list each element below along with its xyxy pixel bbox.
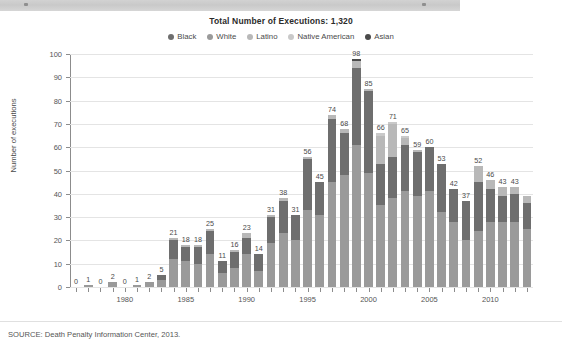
bar-segment-black [523, 203, 532, 229]
bar-column[interactable] [206, 229, 215, 287]
bar-column[interactable] [242, 233, 251, 287]
x-tick-mark [320, 288, 321, 292]
bar-column[interactable] [157, 275, 166, 287]
bar-segment-white [474, 231, 483, 287]
bar-segment-white [145, 282, 154, 287]
x-tick-label: 2010 [470, 295, 510, 304]
bar-value-label: 53 [438, 154, 446, 163]
bar-column[interactable] [388, 122, 397, 287]
gridline [70, 171, 533, 172]
bar-value-label: 66 [377, 123, 385, 132]
bar-segment-latino [401, 138, 410, 145]
bar-column[interactable] [194, 245, 203, 287]
bar-segment-black [486, 189, 495, 222]
bar-segment-white [291, 240, 300, 287]
legend-item-black[interactable]: Black [168, 32, 196, 41]
bar-segment-black [388, 157, 397, 199]
bar-segment-black [181, 247, 190, 261]
bar-column[interactable] [181, 245, 190, 287]
bar-value-label: 38 [279, 188, 287, 197]
y-tick-label: 70 [36, 120, 62, 129]
x-tick-label: 1995 [288, 295, 328, 304]
bar-segment-white [437, 212, 446, 287]
bar-column[interactable] [413, 150, 422, 287]
bar-segment-white [388, 198, 397, 287]
x-tick-mark [490, 288, 491, 292]
bar-value-label: 2 [111, 272, 115, 281]
bar-column[interactable] [523, 196, 532, 287]
bar-column[interactable] [133, 285, 142, 287]
bar-column[interactable] [230, 250, 239, 287]
bar-segment-white [498, 222, 507, 287]
bar-segment-white [413, 196, 422, 287]
bar-segment-white [352, 145, 361, 287]
bar-segment-black [376, 164, 385, 206]
x-tick-mark [381, 288, 382, 292]
bar-value-label: 0 [74, 277, 78, 286]
gridline [70, 287, 533, 288]
bar-column[interactable] [291, 215, 300, 287]
bar-column[interactable] [303, 157, 312, 287]
bar-column[interactable] [340, 129, 349, 287]
bar-value-label: 37 [462, 191, 470, 200]
bar-column[interactable] [315, 182, 324, 287]
bar-column[interactable] [486, 180, 495, 287]
bar-segment-black [340, 133, 349, 175]
bar-segment-black [194, 247, 203, 263]
bar-column[interactable] [364, 89, 373, 287]
bar-column[interactable] [401, 136, 410, 287]
bar-segment-black [328, 119, 337, 182]
legend-swatch-icon [247, 34, 253, 40]
bar-column[interactable] [84, 285, 93, 287]
bar-value-label: 11 [219, 251, 226, 260]
bar-column[interactable] [462, 201, 471, 287]
legend-item-native-american[interactable]: Native American [288, 32, 354, 41]
bar-column[interactable] [169, 238, 178, 287]
x-tick-mark [295, 288, 296, 292]
bar-column[interactable] [498, 187, 507, 287]
bar-segment-white [401, 191, 410, 287]
bar-column[interactable] [279, 198, 288, 287]
bar-value-label: 68 [340, 119, 348, 128]
bar-segment-black [291, 215, 300, 241]
bar-segment-white [157, 280, 166, 287]
bar-segment-black [315, 182, 324, 215]
bar-segment-latino [510, 187, 519, 194]
bar-segment-latino [474, 166, 483, 182]
bar-column[interactable] [267, 215, 276, 287]
bar-column[interactable] [510, 187, 519, 287]
bar-segment-black [169, 240, 178, 259]
legend-item-latino[interactable]: Latino [247, 32, 277, 41]
bar-value-label: 45 [316, 172, 324, 181]
bar-value-label: 1 [135, 275, 139, 284]
bar-column[interactable] [437, 164, 446, 287]
y-tick-label: 100 [36, 50, 62, 59]
bar-segment-white [279, 233, 288, 287]
bar-value-label: 71 [389, 112, 397, 121]
bar-column[interactable] [376, 133, 385, 287]
legend-item-asian[interactable]: Asian [365, 32, 394, 41]
bar-segment-white [523, 229, 532, 287]
gridline [70, 101, 533, 102]
bar-column[interactable] [218, 261, 227, 287]
bar-column[interactable] [474, 166, 483, 287]
x-tick-mark [405, 288, 406, 292]
x-tick-mark [210, 288, 211, 292]
bar-value-label: 0 [123, 277, 127, 286]
bar-column[interactable] [449, 189, 458, 287]
bar-segment-white [340, 175, 349, 287]
bar-column[interactable] [352, 59, 361, 287]
bar-segment-black [218, 261, 227, 273]
chart-figure: Total Number of Executions: 1,320 BlackW… [0, 11, 562, 344]
bar-column[interactable] [425, 147, 434, 287]
bar-column[interactable] [328, 115, 337, 287]
bar-segment-black [267, 217, 276, 243]
bar-column[interactable] [254, 254, 263, 287]
bar-segment-black [401, 145, 410, 192]
bar-column[interactable] [108, 282, 117, 287]
legend-item-white[interactable]: White [207, 32, 236, 41]
bar-segment-white [84, 285, 93, 287]
bar-column[interactable] [145, 282, 154, 287]
bar-segment-white [267, 243, 276, 287]
x-tick-label: 2000 [349, 295, 389, 304]
